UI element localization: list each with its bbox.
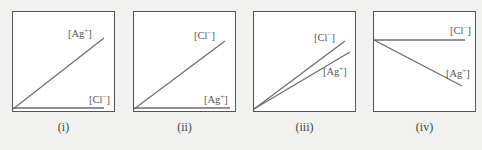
- panel-i: [Ag+] [Cl−]: [12, 11, 115, 112]
- label-cl: [Cl−]: [194, 29, 215, 41]
- label-cl: [Cl−]: [314, 31, 335, 43]
- panel-iii: [Cl−] [Ag+]: [253, 11, 356, 112]
- label-ag: [Ag+]: [204, 93, 228, 105]
- label-ag: [Ag+]: [68, 27, 92, 39]
- caption-ii: (ii): [133, 120, 236, 135]
- panel-iv: [Cl−] [Ag+]: [373, 11, 476, 112]
- caption-iii: (iii): [253, 120, 356, 135]
- label-ag: [Ag+]: [446, 67, 470, 79]
- concentration-plot-iii: [254, 12, 355, 111]
- ag-line: [254, 52, 350, 109]
- caption-i: (i): [12, 120, 115, 135]
- label-cl: [Cl−]: [89, 93, 110, 105]
- ag-line: [374, 40, 462, 86]
- panel-ii: [Cl−] [Ag+]: [133, 11, 236, 112]
- caption-iv: (iv): [373, 120, 476, 135]
- label-cl: [Cl−]: [450, 24, 471, 36]
- label-ag: [Ag+]: [323, 65, 347, 77]
